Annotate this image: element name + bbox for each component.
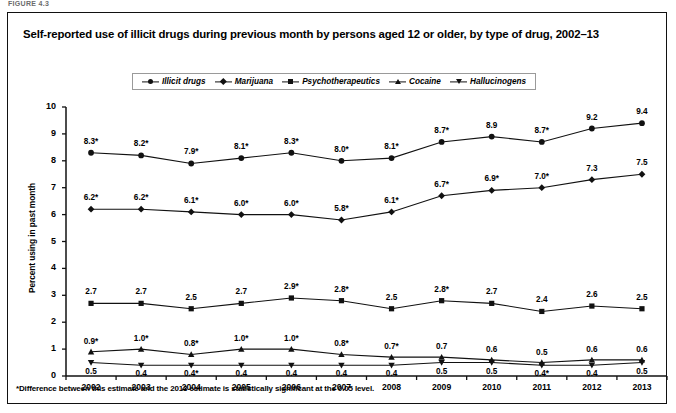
data-point-marker bbox=[388, 354, 394, 360]
data-point-label: 7.3 bbox=[572, 164, 612, 173]
x-axis-tick-label: 2010 bbox=[472, 382, 512, 392]
data-point-marker bbox=[489, 360, 495, 366]
y-axis-tick-label: 7 bbox=[40, 182, 56, 192]
y-axis-tick-label: 1 bbox=[40, 343, 56, 353]
data-point-marker bbox=[238, 346, 244, 352]
legend-item-hallucinogens[interactable]: Hallucinogens bbox=[450, 77, 526, 86]
data-point-label: 5.8* bbox=[321, 204, 361, 213]
data-point-label: 6.9* bbox=[472, 174, 512, 183]
data-point-label: 2.5 bbox=[622, 293, 662, 302]
data-point-marker bbox=[589, 357, 595, 363]
data-point-label: 2.7 bbox=[71, 287, 111, 296]
data-point-label: 2.9* bbox=[271, 282, 311, 291]
data-point-marker bbox=[639, 360, 645, 366]
x-axis-tick-label: 2012 bbox=[572, 382, 612, 392]
data-point-marker bbox=[338, 363, 344, 369]
data-point-marker bbox=[189, 306, 194, 311]
triangle-down-marker-icon bbox=[450, 77, 467, 86]
data-point-marker bbox=[138, 153, 144, 159]
data-point-label: 0.4* bbox=[171, 369, 211, 378]
data-point-marker bbox=[489, 357, 495, 363]
data-point-marker bbox=[239, 301, 244, 306]
data-point-marker bbox=[338, 217, 345, 224]
data-point-marker bbox=[338, 351, 344, 357]
data-point-marker bbox=[539, 309, 544, 314]
series-line bbox=[91, 363, 642, 366]
x-axis-tick-label: 2011 bbox=[522, 382, 562, 392]
data-point-marker bbox=[538, 184, 545, 191]
data-point-marker bbox=[539, 139, 545, 145]
data-point-marker bbox=[439, 139, 445, 145]
data-point-label: 0.5 bbox=[71, 367, 111, 376]
data-point-label: 2.7 bbox=[472, 287, 512, 296]
data-point-marker bbox=[439, 298, 444, 303]
data-point-marker bbox=[138, 363, 144, 369]
data-point-marker bbox=[88, 349, 94, 355]
data-point-label: 0.6 bbox=[572, 345, 612, 354]
y-axis-tick-label: 8 bbox=[40, 155, 56, 165]
data-point-label: 7.9* bbox=[171, 147, 211, 156]
data-point-label: 2.4 bbox=[522, 295, 562, 304]
data-point-marker bbox=[539, 363, 545, 369]
data-point-label: 0.4 bbox=[221, 369, 261, 378]
data-point-label: 8.7* bbox=[522, 126, 562, 135]
y-axis-tick-label: 9 bbox=[40, 128, 56, 138]
data-point-label: 7.5 bbox=[622, 158, 662, 167]
data-point-label: 6.2* bbox=[121, 193, 161, 202]
y-axis-tick-label: 3 bbox=[40, 289, 56, 299]
triangle-up-marker-icon bbox=[389, 77, 406, 86]
data-point-marker bbox=[288, 346, 294, 352]
data-point-label: 2.8* bbox=[321, 285, 361, 294]
data-point-label: 2.8* bbox=[422, 285, 462, 294]
data-point-marker bbox=[289, 295, 294, 300]
data-point-marker bbox=[238, 155, 244, 161]
data-point-label: 0.4 bbox=[372, 369, 412, 378]
data-point-label: 6.1* bbox=[171, 196, 211, 205]
data-point-marker bbox=[388, 209, 395, 216]
data-point-marker bbox=[588, 176, 595, 183]
data-point-label: 6.2* bbox=[71, 193, 111, 202]
figure-label: FIGURE 4.3 bbox=[8, 0, 49, 7]
data-point-label: 2.6 bbox=[572, 290, 612, 299]
data-point-marker bbox=[639, 306, 644, 311]
data-point-marker bbox=[438, 354, 444, 360]
data-point-marker bbox=[639, 120, 645, 126]
data-point-label: 2.5 bbox=[171, 293, 211, 302]
legend-item-marijuana[interactable]: Marijuana bbox=[215, 77, 273, 86]
data-point-label: 2.7 bbox=[121, 287, 161, 296]
y-axis-tick-label: 6 bbox=[40, 209, 56, 219]
data-point-marker bbox=[188, 161, 194, 167]
legend-item-illicit-drugs[interactable]: Illicit drugs bbox=[142, 77, 206, 86]
data-point-label: 0.8* bbox=[171, 339, 211, 348]
legend-item-cocaine[interactable]: Cocaine bbox=[389, 77, 441, 86]
data-point-marker bbox=[238, 211, 245, 218]
data-point-marker bbox=[88, 301, 93, 306]
x-axis-tick-label: 2008 bbox=[372, 382, 412, 392]
data-point-marker bbox=[188, 351, 194, 357]
legend-item-psychotherapeutics[interactable]: Psychotherapeutics bbox=[282, 77, 380, 86]
data-point-marker bbox=[188, 209, 195, 216]
data-point-marker bbox=[589, 363, 595, 369]
legend-item-label: Illicit drugs bbox=[162, 77, 206, 86]
data-point-marker bbox=[339, 158, 345, 164]
data-point-marker bbox=[639, 171, 646, 178]
data-point-label: 0.6 bbox=[622, 345, 662, 354]
data-point-label: 2.5 bbox=[372, 293, 412, 302]
data-point-marker bbox=[389, 306, 394, 311]
data-point-marker bbox=[389, 155, 395, 161]
data-point-marker bbox=[438, 192, 445, 199]
data-point-marker bbox=[88, 150, 94, 156]
data-point-label: 0.4 bbox=[321, 369, 361, 378]
legend-item-label: Cocaine bbox=[409, 77, 441, 86]
data-point-label: 0.4 bbox=[121, 369, 161, 378]
data-point-label: 0.9* bbox=[71, 337, 111, 346]
data-point-marker bbox=[639, 357, 645, 363]
data-point-marker bbox=[589, 303, 594, 308]
data-point-label: 1.0* bbox=[221, 334, 261, 343]
data-point-label: 0.8* bbox=[321, 339, 361, 348]
data-point-label: 6.7* bbox=[422, 180, 462, 189]
legend-item-label: Marijuana bbox=[235, 77, 273, 86]
y-axis-tick-label: 2 bbox=[40, 316, 56, 326]
data-point-label: 1.0* bbox=[121, 334, 161, 343]
data-point-label: 0.5 bbox=[522, 348, 562, 357]
